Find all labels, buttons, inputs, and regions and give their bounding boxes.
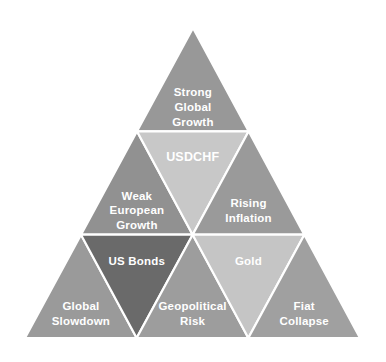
- label-line: Collapse: [279, 315, 329, 327]
- label-line: Risk: [180, 315, 205, 327]
- label-line: Growth: [172, 116, 213, 128]
- label-line: European: [110, 204, 165, 216]
- label-line: US Bonds: [109, 255, 166, 267]
- label-line: USDCHF: [166, 150, 219, 164]
- triangle-diagram-canvas: StrongGlobalGrowthWeakEuropeanGrowthUSDC…: [0, 0, 386, 362]
- triangle-cell-label-gold: Gold: [235, 255, 262, 267]
- label-line: Growth: [116, 219, 157, 231]
- label-line: Rising: [230, 197, 266, 209]
- triangle-cell-label-strong-global-growth: StrongGlobalGrowth: [172, 86, 213, 127]
- triangle-cell-label-usdchf: USDCHF: [166, 150, 219, 164]
- label-line: Inflation: [225, 212, 272, 224]
- label-line: Weak: [122, 190, 153, 202]
- triangle-cell-label-us-bonds: US Bonds: [109, 255, 166, 267]
- label-line: Global: [62, 300, 99, 312]
- label-line: Strong: [174, 86, 212, 98]
- label-line: Geopolitical: [158, 300, 226, 312]
- triangle-cells-layer: [25, 28, 360, 338]
- label-line: Slowdown: [52, 315, 110, 327]
- label-line: Gold: [235, 255, 262, 267]
- label-line: Fiat: [294, 300, 315, 312]
- label-line: Global: [174, 101, 211, 113]
- triangle-diagram: StrongGlobalGrowthWeakEuropeanGrowthUSDC…: [0, 0, 386, 362]
